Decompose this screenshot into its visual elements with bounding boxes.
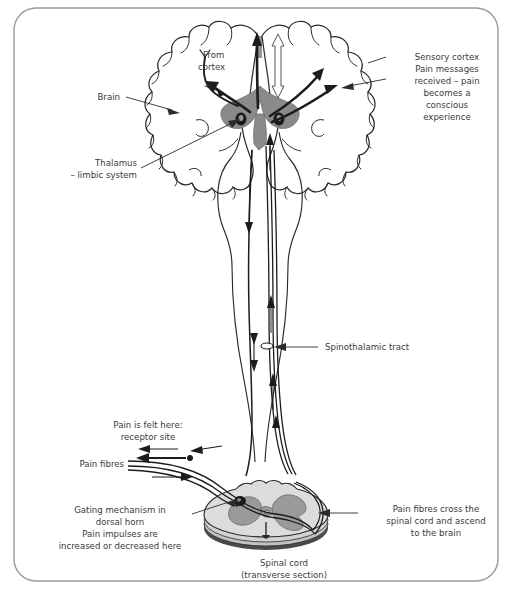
label-from-cortex-line2: cortex [198, 62, 225, 72]
label-pain-felt-line1: Pain is felt here: [113, 420, 182, 430]
pain-pathway-figure: Brain From cortex Thalamus – limbic syst… [0, 0, 515, 606]
label-cross-ascend-line3: to the brain [411, 528, 461, 538]
label-gating-line3: Pain impulses are [82, 529, 158, 539]
label-from-cortex-line1: From [203, 50, 224, 60]
label-gating-line4: increased or decreased here [59, 541, 182, 551]
spinothalamic-tract-marker [261, 343, 273, 349]
label-spinothalamic-tract: Spinothalamic tract [325, 342, 410, 352]
label-spinal-cord-line1: Spinal cord [260, 558, 308, 568]
label-sensory-cortex-line3: received – pain [414, 76, 479, 86]
label-sensory-cortex-line4: becomes a [424, 88, 471, 98]
label-brain: Brain [97, 92, 120, 102]
label-gating-line1: Gating mechanism in [74, 505, 166, 515]
label-spinal-cord-line2: (transverse section) [241, 570, 327, 580]
label-pain-fibres: Pain fibres [79, 459, 124, 469]
label-sensory-cortex-line6: experience [423, 112, 471, 122]
label-thalamus-line1: Thalamus [94, 158, 137, 168]
label-cross-ascend-line2: spinal cord and ascend [386, 516, 485, 526]
label-sensory-cortex-line5: conscious [426, 100, 469, 110]
label-sensory-cortex-line2: Pain messages [415, 64, 479, 74]
label-thalamus-line2: – limbic system [70, 170, 137, 180]
label-gating-line2: dorsal horn [96, 517, 145, 527]
label-cross-ascend-line1: Pain fibres cross the [393, 504, 479, 514]
label-pain-felt-line2: receptor site [121, 432, 176, 442]
label-sensory-cortex-line1: Sensory cortex [415, 52, 479, 62]
